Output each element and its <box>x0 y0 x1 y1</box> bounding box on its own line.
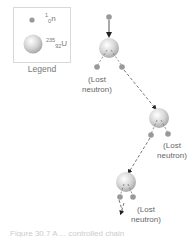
uranium-nucleus-3 <box>116 172 136 192</box>
neutron-2 <box>148 132 154 138</box>
uranium-nucleus-1 <box>99 38 119 58</box>
lost-neutron-2 <box>165 131 171 137</box>
lost-neutron-label-1: (Lostneutron) <box>72 75 122 95</box>
figure-caption: Figure 30.7 A ... controlled chain <box>10 229 124 237</box>
chain-reaction-diagram <box>0 0 195 237</box>
incoming-neutron <box>106 14 112 20</box>
lost-neutron-label-2: (Lostneutron) <box>147 141 195 161</box>
neutron-3 <box>117 194 123 200</box>
lost-neutron-label-3: (Lostneutron) <box>121 205 171 225</box>
neutron-1 <box>119 64 125 70</box>
uranium-nucleus-2 <box>149 108 169 128</box>
lost-neutron-1 <box>94 64 100 70</box>
lost-neutron-3 <box>130 194 136 200</box>
arrow-dashed-icon <box>124 70 155 108</box>
